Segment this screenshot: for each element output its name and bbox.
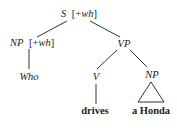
word-drives: drives <box>81 105 108 116</box>
edge-s-np <box>37 21 67 37</box>
node-np-subject: NP [+wh] <box>9 37 54 48</box>
node-v: V <box>93 71 101 82</box>
feature-np: [+wh] <box>29 37 54 48</box>
triangle-np-collapsed <box>138 82 164 102</box>
feature-s: [+wh] <box>72 8 97 19</box>
node-vp: VP <box>118 38 131 49</box>
edge-s-vp <box>90 21 120 37</box>
node-np-object: NP <box>144 69 159 80</box>
syntax-tree: S [+wh] NP [+wh] Who VP V NP drives a Ho… <box>0 0 177 131</box>
word-who: Who <box>19 71 38 82</box>
edge-vp-np <box>130 50 147 67</box>
edge-vp-v <box>97 50 117 69</box>
phrase-a-honda: a Honda <box>132 105 171 116</box>
node-s: S [+wh] <box>61 8 97 19</box>
